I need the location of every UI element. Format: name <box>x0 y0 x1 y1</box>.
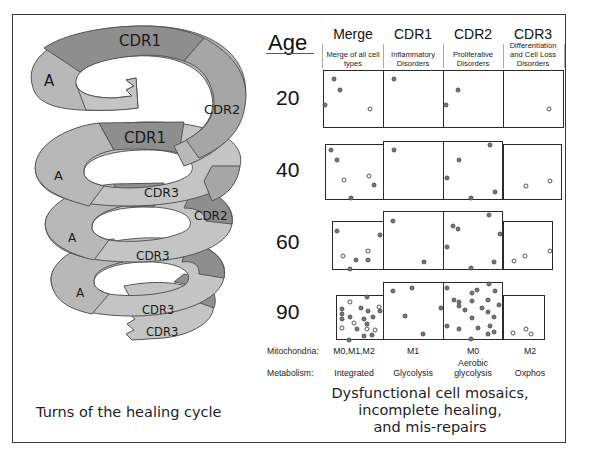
column-separator <box>564 44 565 68</box>
spiral-label-cdr3-4: CDR3 <box>142 303 174 317</box>
mitochondria-cdr1: M1 <box>381 346 445 356</box>
spiral-label-cdr3-2: CDR3 <box>144 185 179 200</box>
spiral-label-a-2: A <box>54 168 63 183</box>
column-subtitle-cdr1: Inflammatory Disorders <box>384 50 442 68</box>
spiral-label-cdr1-top: CDR1 <box>119 32 161 50</box>
cell-90-cdr3 <box>503 295 545 340</box>
metabolism-cdr3: Oxphos <box>498 368 562 378</box>
mitochondria-cdr3: M2 <box>498 346 562 356</box>
column-header-cdr1: CDR1 <box>383 26 443 42</box>
spiral-label-cdr2-top: CDR2 <box>204 102 240 117</box>
cell-60-cdr1 <box>383 211 444 270</box>
spiral-label-cdr3-3: CDR3 <box>136 249 170 263</box>
cell-40-cdr1 <box>383 141 444 200</box>
summary-line-3: and mis-repairs <box>320 419 540 436</box>
summary-line-2: incomplete healing, <box>320 402 540 419</box>
column-subtitle-cdr2: Proliferative Disorders <box>444 50 502 68</box>
cell-90-merge <box>336 295 384 340</box>
cell-40-cdr2 <box>443 141 503 200</box>
mitochondria-cdr2: M0 <box>441 346 505 356</box>
summary-text: Dysfunctional cell mosaics, incomplete h… <box>320 385 540 436</box>
spiral-label-a-1: A <box>44 72 55 90</box>
age-label-20: 20 <box>276 86 299 110</box>
column-header-cdr3: CDR3 <box>503 26 563 42</box>
column-separator <box>322 44 323 68</box>
metabolism-label: Metabolism: <box>267 368 313 378</box>
cell-20-cdr3 <box>503 70 564 128</box>
column-subtitle-cdr3: Differentiation and Cell Loss Disorders <box>504 41 562 68</box>
column-header-cdr2: CDR2 <box>443 26 503 42</box>
spiral-label-a-4: A <box>76 286 85 300</box>
spiral-label-cdr1-2: CDR1 <box>124 129 166 147</box>
healing-cycle-spiral: CDR1 A CDR2 CDR1 A CDR3 CDR2 A CDR3 A CD… <box>14 16 260 346</box>
cell-20-cdr2 <box>443 70 504 128</box>
column-header-merge: Merge <box>323 26 383 42</box>
cell-20-cdr1 <box>383 70 444 128</box>
spiral-label-cdr2-3: CDR2 <box>194 209 228 223</box>
age-label-60: 60 <box>276 230 299 254</box>
mitochondria-label: Mitochondria: <box>267 346 319 356</box>
spiral-caption: Turns of the healing cycle <box>36 404 221 420</box>
age-label-40: 40 <box>276 158 299 182</box>
column-subtitle-merge: Merge of all cell types <box>324 50 382 68</box>
cell-40-merge <box>325 144 384 200</box>
cell-40-cdr3 <box>503 144 562 200</box>
cell-20-merge <box>323 70 384 128</box>
cell-60-cdr2 <box>443 211 503 270</box>
age-label-90: 90 <box>276 300 299 324</box>
age-header-underline <box>266 53 314 54</box>
metabolism-cdr2: Aerobic glycolysis <box>441 358 505 378</box>
mitochondria-merge: M0,M1,M2 <box>322 346 386 356</box>
cell-60-cdr3 <box>503 221 553 270</box>
metabolism-cdr1: Glycolysis <box>381 368 445 378</box>
metabolism-merge: Integrated <box>322 368 386 378</box>
cell-60-merge <box>332 221 384 270</box>
summary-line-1: Dysfunctional cell mosaics, <box>320 385 540 402</box>
cell-90-cdr1 <box>383 282 444 340</box>
spiral-label-a-3: A <box>68 231 77 245</box>
spiral-label-cdr3-tail: CDR3 <box>146 325 178 339</box>
cell-90-cdr2 <box>443 282 503 340</box>
